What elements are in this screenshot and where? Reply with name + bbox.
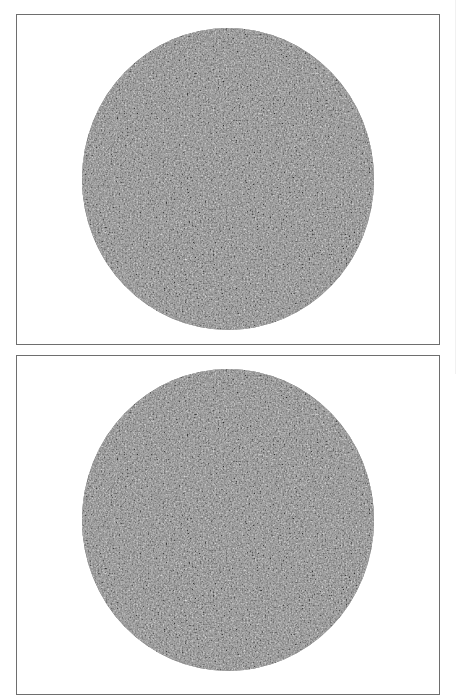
noise-disc-top [82,28,374,330]
noise-texture [82,369,374,671]
noise-disc-bottom [82,369,374,671]
page-edge-divider [455,0,456,374]
figure-panel-bottom [16,355,440,695]
noise-texture [82,28,374,330]
figure-panel-top [16,14,440,345]
